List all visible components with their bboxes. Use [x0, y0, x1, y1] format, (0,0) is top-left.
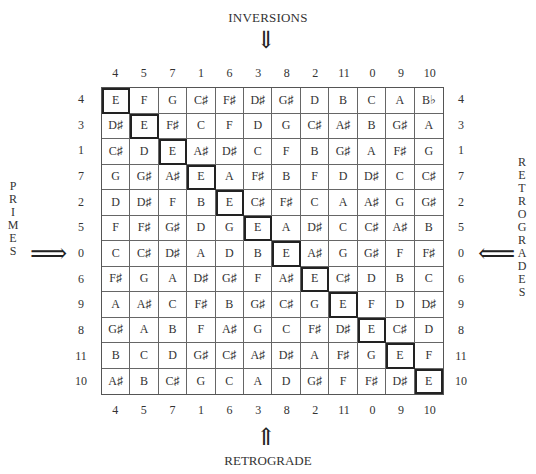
matrix-cell: C	[386, 165, 414, 191]
matrix-cell: G♯	[159, 216, 187, 242]
column-number: 0	[358, 66, 387, 81]
column-number: 4	[101, 66, 130, 81]
matrix-cell: B	[130, 369, 158, 395]
row-number: 4	[66, 87, 96, 113]
column-number: 10	[415, 66, 444, 81]
matrix-cell: A♯	[244, 343, 272, 369]
matrix-cell: D	[358, 267, 386, 293]
row-number: 4	[446, 87, 476, 113]
matrix-cell: C♯	[415, 165, 443, 191]
matrix-cell: A♯	[102, 369, 130, 395]
matrix-cell: B	[102, 343, 130, 369]
matrix-cell: D	[159, 343, 187, 369]
matrix-cell: D♯	[358, 165, 386, 191]
matrix-cell: D♯	[415, 292, 443, 318]
matrix-cell: F♯	[130, 216, 158, 242]
matrix-cell: G	[301, 292, 329, 318]
matrix-cell: A♯	[301, 241, 329, 267]
row-number: 2	[446, 190, 476, 216]
matrix-cell: C	[159, 292, 187, 318]
matrix-cell: A♯	[358, 190, 386, 216]
primes-letter: S	[6, 245, 20, 258]
row-number: 10	[66, 369, 96, 395]
matrix-cell: A	[329, 190, 357, 216]
tone-row-matrix: EFGC♯F♯D♯G♯DBCAB♭D♯EF♯CFDGC♯A♯BG♯AC♯DEA♯…	[101, 87, 444, 395]
matrix-cell: A♯	[329, 114, 357, 140]
matrix-cell: F♯	[415, 241, 443, 267]
matrix-cell: F♯	[386, 139, 414, 165]
matrix-cell: C	[415, 267, 443, 293]
row-number: 0	[446, 241, 476, 267]
column-number: 8	[272, 403, 301, 418]
matrix-cell: B	[272, 165, 300, 191]
matrix-cell: D♯	[272, 343, 300, 369]
matrix-cell: F	[272, 139, 300, 165]
matrix-cell: B	[358, 114, 386, 140]
matrix-cell: C♯	[102, 139, 130, 165]
matrix-cell: D	[415, 318, 443, 344]
matrix-cell: D	[130, 139, 158, 165]
matrix-cell: F♯	[329, 343, 357, 369]
matrix-cell: G♯	[187, 343, 215, 369]
matrix-cell: F	[301, 165, 329, 191]
matrix-cell: A♯	[130, 292, 158, 318]
matrix-cell: A	[187, 241, 215, 267]
retrograde-label: RETROGRADE	[0, 453, 536, 469]
matrix-cell: A	[130, 318, 158, 344]
column-number: 8	[272, 66, 301, 81]
matrix-cell: G	[187, 369, 215, 395]
matrix-cell: C	[272, 318, 300, 344]
row-number: 3	[66, 113, 96, 139]
matrix-cell: E	[244, 216, 272, 242]
row-number: 0	[66, 241, 96, 267]
matrix-cell: G	[329, 241, 357, 267]
matrix-cell: D♯	[159, 241, 187, 267]
row-number: 6	[66, 267, 96, 293]
row-number: 9	[446, 292, 476, 318]
matrix-cell: C♯	[159, 369, 187, 395]
matrix-cell: A	[415, 114, 443, 140]
matrix-cell: A♯	[272, 267, 300, 293]
matrix-cell: D♯	[130, 190, 158, 216]
matrix-cell: A♯	[187, 139, 215, 165]
row-number: 6	[446, 267, 476, 293]
matrix-cell: C♯	[358, 216, 386, 242]
matrix-cell: G	[216, 216, 244, 242]
matrix-cell: D♯	[244, 88, 272, 114]
matrix-cell: C	[358, 88, 386, 114]
matrix-cell: C♯	[329, 267, 357, 293]
matrix-cell: C♯	[301, 114, 329, 140]
matrix-cell: G♯	[415, 190, 443, 216]
matrix-cell: B	[187, 190, 215, 216]
matrix-cell: G♯	[329, 139, 357, 165]
row-number: 10	[446, 369, 476, 395]
column-number: 3	[244, 66, 273, 81]
matrix-cell: C	[102, 241, 130, 267]
column-number: 5	[130, 403, 159, 418]
column-number: 9	[387, 66, 416, 81]
matrix-cell: D	[244, 114, 272, 140]
matrix-cell: E	[272, 241, 300, 267]
matrix-cell: G	[159, 88, 187, 114]
matrix-cell: G	[386, 190, 414, 216]
column-number: 2	[301, 403, 330, 418]
column-numbers-bottom: 45716382110910	[101, 403, 444, 418]
matrix-cell: E	[102, 88, 130, 114]
column-number: 4	[101, 403, 130, 418]
matrix-cell: A	[301, 343, 329, 369]
matrix-cell: D	[301, 88, 329, 114]
arrow-left-icon: ⟸	[478, 241, 515, 267]
matrix-cell: F	[386, 241, 414, 267]
matrix-cell: G	[244, 318, 272, 344]
matrix-cell: A	[358, 139, 386, 165]
matrix-cell: C	[329, 216, 357, 242]
matrix-cell: F♯	[301, 318, 329, 344]
retrogrades-label: RETROGRADES	[515, 156, 529, 299]
matrix-cell: D	[329, 165, 357, 191]
row-number: 7	[446, 164, 476, 190]
row-number: 8	[66, 318, 96, 344]
matrix-cell: A♯	[216, 318, 244, 344]
row-number: 2	[66, 190, 96, 216]
matrix-cell: D♯	[187, 267, 215, 293]
matrix-cell: C♯	[272, 292, 300, 318]
